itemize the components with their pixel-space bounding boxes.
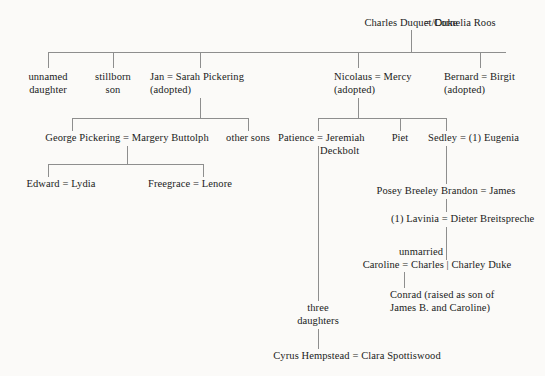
node-jan-sarah-pickering: Jan = Sarah Pickering (adopted) — [150, 70, 244, 96]
stillborn-son-line1: stillborn — [95, 70, 131, 83]
node-caroline-charles-charley-duke: Caroline = Charles | Charley Duke — [363, 258, 512, 271]
family-tree-diagram: Charles Duquet/Duke = Cornelia Roos unna… — [0, 0, 545, 376]
lavinia-label: (1) Lavinia = Dieter Breitspreche — [391, 212, 534, 225]
connector-nicolaus-sibling-bar — [318, 118, 446, 119]
connector-three-daughters-drop — [318, 329, 319, 349]
connector-patience-long-descent — [318, 146, 319, 301]
connector-g2-stub-2 — [113, 52, 114, 68]
node-patience-jeremiah-deckbolt: Patience = Jeremiah Deckbolt — [278, 131, 365, 157]
node-posey-breeley-brandon-james: Posey Breeley Brandon = James — [377, 184, 516, 197]
node-piet: Piet — [392, 131, 409, 144]
node-bernard-birgit: Bernard = Birgit (adopted) — [444, 70, 515, 96]
connector-jan-stub-1 — [72, 118, 73, 131]
node-cyrus-hempstead-clara-spottiswood: Cyrus Hempstead = Clara Spottiswood — [273, 349, 441, 362]
node-edward-lydia: Edward = Lydia — [26, 177, 95, 190]
node-george-pickering-margery-buttolph: George Pickering = Margery Buttolph — [45, 131, 209, 144]
patience-line2: Deckbolt — [278, 144, 365, 157]
bernard-line2: (adopted) — [444, 83, 515, 96]
connector-g2-stub-4 — [358, 52, 359, 68]
jan-line2: (adopted) — [150, 83, 244, 96]
patience-line1: Patience = Jeremiah — [278, 131, 365, 144]
unmarried-label: unmarried — [399, 245, 443, 258]
connector-lavinia-drop — [446, 227, 447, 260]
three-daughters-line2: daughters — [297, 314, 339, 327]
connector-sedley-drop — [446, 146, 447, 184]
node-root-equals: = — [424, 16, 430, 29]
three-daughters-line1: three — [297, 301, 339, 314]
connector-caroline-drop — [404, 272, 405, 288]
connector-jan-stub-2 — [248, 118, 249, 131]
connector-nicolaus-stub-1 — [318, 118, 319, 131]
nicolaus-line1: Nicolaus = Mercy — [334, 70, 412, 83]
connector-root-drop — [411, 30, 412, 52]
jan-line1: Jan = Sarah Pickering — [150, 70, 244, 83]
connector-posey-drop — [446, 199, 447, 212]
conrad-line2: James B. and Caroline) — [390, 301, 494, 314]
node-sedley-eugenia: Sedley = (1) Eugenia — [428, 131, 519, 144]
node-stillborn-son: stillborn son — [95, 70, 131, 96]
node-nicolaus-mercy: Nicolaus = Mercy (adopted) — [334, 70, 412, 96]
root-spouse-label: Cornelia Roos — [434, 16, 496, 29]
posey-label: Posey Breeley Brandon = James — [377, 184, 516, 197]
node-unnamed-daughter: unnamed daughter — [28, 70, 67, 96]
connector-nicolaus-drop — [358, 98, 359, 118]
node-freegrace-lenore: Freegrace = Lenore — [148, 177, 232, 190]
bernard-line1: Bernard = Birgit — [444, 70, 515, 83]
node-unmarried-label: unmarried — [399, 245, 443, 258]
unnamed-daughter-line1: unnamed — [28, 70, 67, 83]
node-lavinia-dieter-breitspreche: (1) Lavinia = Dieter Breitspreche — [391, 212, 534, 225]
unnamed-daughter-line2: daughter — [28, 83, 67, 96]
piet-label: Piet — [392, 131, 409, 144]
connector-jan-sibling-bar — [72, 118, 249, 119]
node-three-daughters: three daughters — [297, 301, 339, 327]
node-other-sons: other sons — [226, 131, 270, 144]
freegrace-label: Freegrace = Lenore — [148, 177, 232, 190]
connector-g2-stub-3 — [200, 52, 201, 68]
connector-jan-drop — [200, 98, 201, 118]
connector-g2-stub-1 — [48, 52, 49, 68]
connector-george-stub-1 — [48, 164, 49, 177]
connector-nicolaus-stub-3 — [446, 118, 447, 131]
connector-g2-sibling-bar — [48, 52, 506, 53]
conrad-line1: Conrad (raised as son of — [390, 288, 494, 301]
stillborn-son-line2: son — [95, 83, 131, 96]
other-sons-label: other sons — [226, 131, 270, 144]
edward-label: Edward = Lydia — [26, 177, 95, 190]
connector-nicolaus-stub-2 — [400, 118, 401, 131]
sedley-label: Sedley = (1) Eugenia — [428, 131, 519, 144]
connector-g2-stub-5 — [480, 52, 481, 68]
cyrus-label: Cyrus Hempstead = Clara Spottiswood — [273, 349, 441, 362]
caroline-label: Caroline = Charles | Charley Duke — [363, 258, 512, 271]
connector-george-drop — [127, 146, 128, 164]
connector-george-sibling-bar — [48, 164, 204, 165]
marriage-symbol-root: = — [424, 16, 430, 29]
george-label: George Pickering = Margery Buttolph — [45, 131, 209, 144]
connector-george-stub-2 — [203, 164, 204, 177]
node-conrad: Conrad (raised as son of James B. and Ca… — [390, 288, 494, 314]
node-cornelia-roos: Cornelia Roos — [434, 16, 496, 29]
nicolaus-line2: (adopted) — [334, 83, 412, 96]
